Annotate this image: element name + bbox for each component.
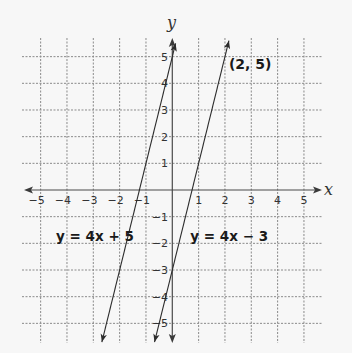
coordinate-plane-chart: x y −5−4−3−2−11234554321−1−2−3−4−5 y = 4… bbox=[0, 0, 352, 353]
x-tick-label: 2 bbox=[221, 194, 228, 207]
equation-label: y = 4x − 3 bbox=[190, 228, 268, 244]
y-tick-label: −3 bbox=[152, 264, 168, 277]
y-tick-label: −2 bbox=[152, 237, 168, 250]
x-tick-label: 4 bbox=[274, 194, 281, 207]
x-tick-label: 3 bbox=[248, 194, 255, 207]
x-tick-label: 5 bbox=[300, 194, 307, 207]
equation-label: y = 4x + 5 bbox=[56, 228, 134, 244]
y-tick-label: 3 bbox=[161, 104, 168, 117]
point-label: (2, 5) bbox=[229, 56, 271, 72]
y-tick-label: 2 bbox=[161, 131, 168, 144]
y-tick-label: −1 bbox=[152, 211, 168, 224]
y-tick-label: 5 bbox=[161, 51, 168, 64]
x-tick-label: −4 bbox=[55, 194, 71, 207]
y-tick-label: 1 bbox=[161, 157, 168, 170]
y-axis-label: y bbox=[166, 13, 177, 32]
x-tick-label: 1 bbox=[195, 194, 202, 207]
x-tick-label: −3 bbox=[81, 194, 97, 207]
x-axis-label: x bbox=[324, 180, 333, 199]
axes: x y bbox=[24, 13, 333, 343]
x-tick-label: −5 bbox=[29, 194, 45, 207]
x-tick-label: −2 bbox=[108, 194, 124, 207]
